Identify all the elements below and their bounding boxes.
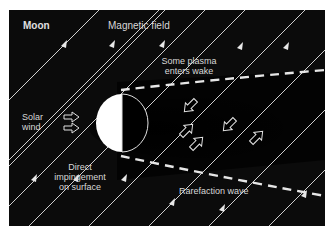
label-plasma-enters-wake: Some plasma enters wake [154, 56, 224, 76]
label-rarefaction-wave: Rarefaction wave [179, 186, 249, 196]
moon [96, 94, 148, 152]
label-plasma-line1: Some plasma [154, 56, 224, 66]
solar-wind-arrows [64, 112, 79, 133]
label-plasma-line2: enters wake [154, 66, 224, 76]
label-direct-line3: on surface [45, 182, 115, 192]
label-direct-impingement: Direct impingement on surface [45, 162, 115, 192]
diagram-frame: Moon Magnetic field Some plasma enters w… [9, 10, 325, 226]
title-moon: Moon [23, 21, 50, 31]
label-solar-line2: wind [22, 122, 43, 132]
label-direct-line2: impingement [45, 172, 115, 182]
label-magnetic-field: Magnetic field [108, 21, 170, 31]
field-diagram [9, 10, 325, 226]
label-solar-line1: Solar [22, 112, 43, 122]
label-solar-wind: Solar wind [22, 112, 43, 132]
label-direct-line1: Direct [45, 162, 115, 172]
